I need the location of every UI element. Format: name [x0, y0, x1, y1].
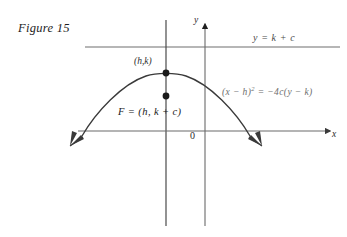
parabola-equation-label: (x − h)2 = −4c(y − k): [222, 86, 313, 98]
vertex-point-marker: [163, 70, 170, 77]
figure-caption: Figure 15: [18, 22, 70, 35]
right-branch-arrowhead: [248, 131, 262, 146]
focus-point-marker: [163, 93, 170, 100]
left-branch-arrowhead: [70, 131, 84, 146]
figure-15-parabola-diagram: Figure 15 y = k + c (h,k) (x − h)2 = −4c…: [0, 0, 347, 237]
equation-remainder: = −4c(y − k): [255, 87, 313, 97]
vertex-coordinate-label: (h,k): [134, 57, 152, 67]
focus-coordinate-label: F = (h, k + c): [118, 107, 182, 118]
equation-base: (x − h): [222, 87, 251, 97]
x-axis-label: x: [332, 130, 336, 140]
origin-label: 0: [190, 131, 195, 141]
directrix-equation-label: y = k + c: [253, 33, 295, 43]
y-axis-label: y: [194, 16, 198, 26]
